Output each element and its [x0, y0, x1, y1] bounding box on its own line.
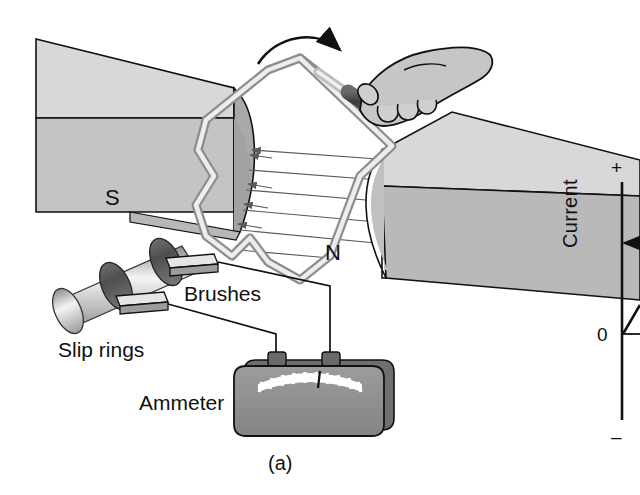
finger-1 — [377, 106, 398, 122]
rising-current-segment — [623, 305, 640, 334]
north-magnet-front-face — [382, 186, 640, 300]
slip-rings-label: Slip rings — [58, 339, 144, 360]
brush-upper — [166, 254, 218, 276]
hand-gripping-crank — [358, 48, 493, 127]
slip-rings-assembly — [46, 233, 198, 338]
ammeter-device — [234, 352, 394, 436]
axis-label-current: Current — [560, 179, 580, 248]
brush-lower — [116, 292, 168, 314]
ammeter-label: Ammeter — [139, 392, 224, 413]
magnet-pole-label-south: S — [105, 187, 120, 209]
axis-tick-zero: 0 — [597, 325, 608, 344]
finger-2 — [397, 104, 418, 120]
wire-lower-brush-to-terminal — [168, 304, 276, 360]
figure-caption: (a) — [268, 453, 292, 473]
ammeter-terminal-right — [322, 352, 340, 366]
axis-tick-negative: – — [611, 427, 622, 446]
north-magnet-block — [366, 112, 640, 300]
generator-illustration — [0, 0, 640, 495]
brushes-label: Brushes — [184, 283, 261, 304]
south-magnet-block — [36, 39, 254, 240]
ammeter-terminal-left — [268, 352, 286, 366]
finger-3 — [417, 100, 436, 114]
wire-upper-brush-to-terminal — [218, 262, 330, 360]
generator-figure: S N Brushes Slip rings Ammeter Current +… — [0, 0, 640, 495]
axis-tick-positive: + — [611, 158, 622, 177]
south-magnet-bottom-edge — [130, 212, 240, 240]
magnet-pole-label-north: N — [325, 242, 341, 264]
north-magnet-top-face — [382, 112, 640, 196]
south-magnet-top-face — [36, 39, 234, 118]
